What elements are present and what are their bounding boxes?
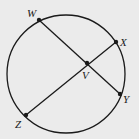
point-z (24, 113, 28, 117)
point-w (37, 18, 41, 22)
point-v (85, 61, 89, 65)
chord-wy (39, 20, 120, 94)
diagram-stage: W X Y Z V (0, 0, 139, 139)
label-v: V (82, 69, 90, 81)
label-z: Z (15, 118, 22, 130)
label-x: X (119, 36, 128, 48)
point-y (118, 92, 122, 96)
label-y: Y (123, 93, 131, 105)
point-x (114, 40, 118, 44)
circle-chords-diagram: W X Y Z V (0, 0, 139, 139)
label-w: W (27, 7, 37, 19)
